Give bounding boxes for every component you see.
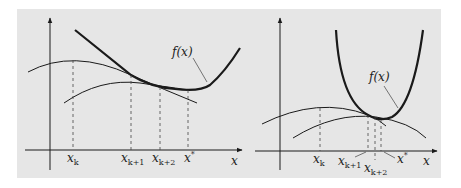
right-curve-label: f(x) [368,70,390,84]
left-curve-label: f(x) [171,45,193,59]
newton-method-figure: f(x) x xk xk+1 xk+2 x* f(x) x xk xk+1 xk… [0,0,461,188]
left-axis-label: x [231,154,238,168]
right-axis-label: x [423,154,430,168]
